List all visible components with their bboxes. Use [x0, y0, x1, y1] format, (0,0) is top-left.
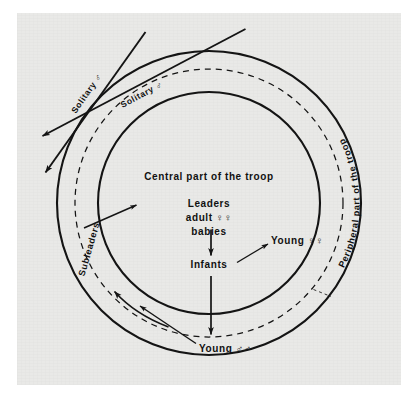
central-zone-label: Central part of the troop — [144, 171, 273, 182]
young-females-label: Young ♀♀ — [271, 235, 324, 246]
subleaders-label: Subleaders — [77, 221, 102, 277]
ring-flow-arrow — [115, 292, 169, 328]
solitary-male-path-inner — [43, 29, 246, 136]
young-males-label: Young ♂♂ — [199, 343, 252, 354]
solitary-male-outer-label: Solitary ♂ — [69, 71, 104, 115]
babies-label: babies — [191, 226, 226, 237]
figure-root: Central part of the troop Leaders adult … — [0, 0, 419, 404]
adult-females-label: adult ♀♀ — [186, 212, 232, 223]
troop-structure-diagram: Central part of the troop Leaders adult … — [0, 0, 419, 404]
young-females-pointer-arrow — [237, 244, 268, 263]
infants-label: Infants — [191, 259, 228, 270]
leaders-label: Leaders — [188, 198, 231, 209]
peripheral-zone-label: Peripheral part of the troop — [337, 137, 362, 269]
